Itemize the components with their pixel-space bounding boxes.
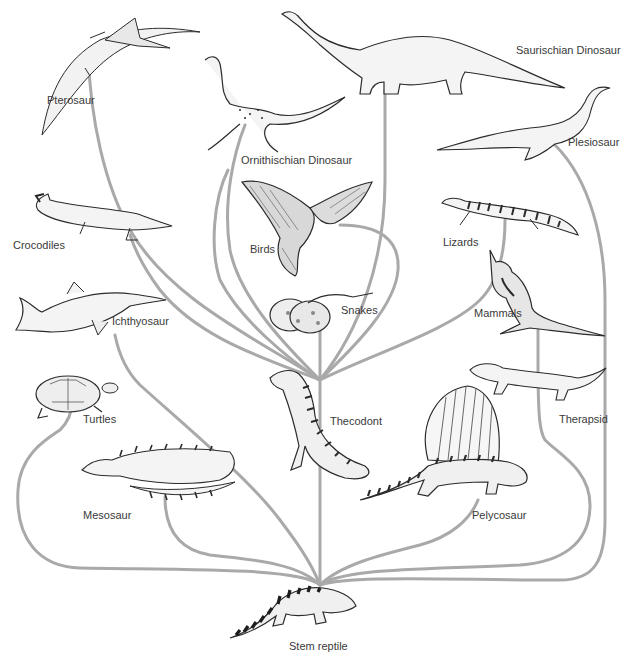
label-mammals: Mammals (474, 308, 522, 319)
bird-icon (240, 178, 375, 278)
label-crocodiles: Crocodiles (13, 240, 65, 251)
pterosaur-illustration (30, 10, 200, 140)
plesiosaur-icon (435, 82, 615, 162)
plesiosaur-illustration (435, 82, 615, 162)
label-lizards: Lizards (443, 237, 478, 248)
label-saurischian-dinosaur: Saurischian Dinosaur (516, 45, 621, 56)
reptile-evolution-diagram: Pterosaur Ornithischian Dinosaur Saurisc… (0, 0, 627, 660)
label-stem-reptile: Stem reptile (289, 641, 348, 652)
label-pterosaur: Pterosaur (47, 95, 95, 106)
mammal-icon (480, 248, 610, 343)
label-ichthyosaur: Ichthyosaur (112, 316, 169, 327)
crocodile-illustration (30, 190, 175, 245)
mesosaur-icon (80, 442, 240, 502)
label-mesosaur: Mesosaur (83, 510, 131, 521)
pelycosaur-illustration (358, 382, 533, 507)
label-therapsid: Therapsid (559, 414, 608, 425)
stem-reptile-illustration (228, 580, 358, 640)
stem-reptile-icon (228, 580, 358, 640)
pelycosaur-icon (358, 382, 533, 507)
lizard-icon (440, 195, 580, 240)
label-plesiosaur: Plesiosaur (568, 137, 619, 148)
birds-illustration (240, 178, 375, 278)
mesosaur-illustration (80, 442, 240, 502)
lizard-illustration (440, 195, 580, 240)
mammal-illustration (480, 248, 610, 343)
ichthyosaur-icon (12, 280, 167, 340)
crocodile-icon (30, 190, 175, 245)
branch-pelycosaur (320, 500, 478, 585)
pterosaur-icon (30, 10, 200, 140)
label-birds: Birds (250, 244, 275, 255)
label-pelycosaur: Pelycosaur (472, 510, 526, 521)
label-thecodont: Thecodont (330, 416, 382, 427)
label-snakes: Snakes (341, 305, 378, 316)
label-ornithischian-dinosaur: Ornithischian Dinosaur (241, 155, 352, 166)
ichthyosaur-illustration (12, 280, 167, 340)
label-turtles: Turtles (83, 414, 116, 425)
